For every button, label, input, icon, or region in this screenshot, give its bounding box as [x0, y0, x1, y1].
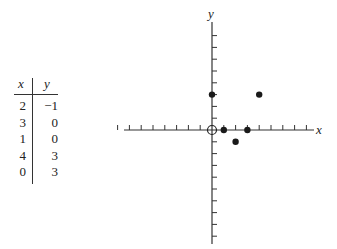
- data-point: [209, 91, 215, 97]
- data-point: [221, 127, 227, 133]
- data-point: [244, 127, 250, 133]
- coordinate-plane: x y: [0, 0, 337, 249]
- data-point: [256, 91, 262, 97]
- data-point: [232, 139, 238, 145]
- y-axis-label: y: [206, 6, 214, 21]
- x-axis-label: x: [315, 122, 322, 137]
